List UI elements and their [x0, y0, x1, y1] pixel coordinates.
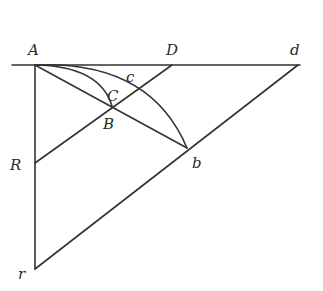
label-A: A — [26, 41, 39, 59]
label-R: R — [9, 156, 21, 174]
line-R-D — [35, 65, 172, 163]
label-D: D — [165, 41, 178, 59]
diagram-canvas: A D d c C B b R r — [0, 0, 323, 291]
label-d: d — [290, 41, 300, 59]
line-A-b — [35, 65, 187, 148]
label-r: r — [18, 265, 26, 283]
label-B: B — [102, 115, 114, 133]
label-C: C — [107, 87, 119, 105]
label-b: b — [192, 154, 202, 172]
line-r-d — [35, 65, 298, 269]
label-c: c — [126, 68, 135, 86]
